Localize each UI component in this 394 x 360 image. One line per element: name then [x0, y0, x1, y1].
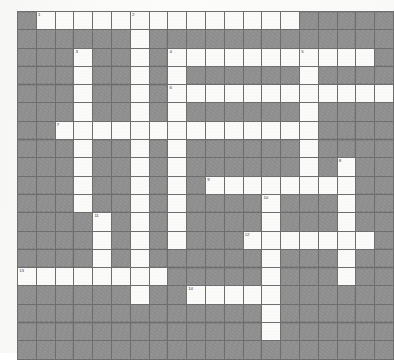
crossword-cell-open[interactable]: [356, 48, 375, 66]
crossword-cell-open[interactable]: 8: [337, 158, 356, 176]
crossword-cell-open[interactable]: [168, 213, 187, 231]
crossword-cell-open[interactable]: [93, 249, 112, 267]
crossword-cell-open[interactable]: [36, 268, 55, 286]
crossword-cell-open[interactable]: [262, 286, 281, 304]
crossword-cell-open[interactable]: 9: [205, 176, 224, 194]
crossword-cell-open[interactable]: [224, 121, 243, 139]
crossword-cell-open[interactable]: [168, 140, 187, 158]
crossword-cell-open[interactable]: [74, 121, 93, 139]
crossword-cell-open[interactable]: [55, 268, 74, 286]
crossword-cell-open[interactable]: [337, 213, 356, 231]
crossword-cell-open[interactable]: [243, 12, 262, 30]
crossword-cell-open[interactable]: 10: [262, 194, 281, 212]
crossword-cell-open[interactable]: [262, 48, 281, 66]
crossword-cell-open[interactable]: [149, 121, 168, 139]
crossword-cell-open[interactable]: [74, 158, 93, 176]
crossword-cell-open[interactable]: [337, 85, 356, 103]
crossword-cell-open[interactable]: [130, 121, 149, 139]
crossword-cell-open[interactable]: [243, 286, 262, 304]
crossword-cell-open[interactable]: [205, 12, 224, 30]
crossword-cell-open[interactable]: [187, 85, 206, 103]
crossword-cell-open[interactable]: [187, 121, 206, 139]
crossword-cell-open[interactable]: [262, 85, 281, 103]
crossword-cell-open[interactable]: [93, 121, 112, 139]
crossword-cell-open[interactable]: [337, 249, 356, 267]
crossword-cell-open[interactable]: [149, 268, 168, 286]
crossword-cell-open[interactable]: 3: [74, 48, 93, 66]
crossword-cell-open[interactable]: [243, 48, 262, 66]
crossword-cell-open[interactable]: [130, 66, 149, 84]
crossword-cell-open[interactable]: [130, 194, 149, 212]
crossword-cell-open[interactable]: [243, 121, 262, 139]
crossword-cell-open[interactable]: [262, 12, 281, 30]
crossword-cell-open[interactable]: [337, 176, 356, 194]
crossword-cell-open[interactable]: [299, 176, 318, 194]
crossword-cell-open[interactable]: [168, 176, 187, 194]
crossword-cell-open[interactable]: [168, 66, 187, 84]
crossword-cell-open[interactable]: [281, 176, 300, 194]
crossword-cell-open[interactable]: [337, 231, 356, 249]
crossword-cell-open[interactable]: [262, 268, 281, 286]
crossword-cell-open[interactable]: [130, 48, 149, 66]
crossword-cell-open[interactable]: 11: [93, 213, 112, 231]
crossword-cell-open[interactable]: [262, 121, 281, 139]
crossword-cell-open[interactable]: [130, 286, 149, 304]
crossword-cell-open[interactable]: [224, 48, 243, 66]
crossword-cell-open[interactable]: 6: [168, 85, 187, 103]
crossword-cell-open[interactable]: [299, 121, 318, 139]
crossword-cell-open[interactable]: [337, 268, 356, 286]
crossword-cell-open[interactable]: [168, 12, 187, 30]
crossword-cell-open[interactable]: [187, 12, 206, 30]
crossword-cell-open[interactable]: [299, 140, 318, 158]
crossword-cell-open[interactable]: [224, 176, 243, 194]
crossword-cell-open[interactable]: [130, 103, 149, 121]
crossword-cell-open[interactable]: [130, 231, 149, 249]
crossword-cell-open[interactable]: [111, 121, 130, 139]
crossword-cell-open[interactable]: [111, 12, 130, 30]
crossword-cell-open[interactable]: [356, 231, 375, 249]
crossword-cell-open[interactable]: [74, 268, 93, 286]
crossword-cell-open[interactable]: 13: [18, 268, 37, 286]
crossword-cell-open[interactable]: [130, 158, 149, 176]
crossword-cell-open[interactable]: [299, 158, 318, 176]
crossword-cell-open[interactable]: [130, 176, 149, 194]
crossword-cell-open[interactable]: [168, 231, 187, 249]
crossword-cell-open[interactable]: [205, 121, 224, 139]
crossword-cell-open[interactable]: [281, 12, 300, 30]
crossword-cell-open[interactable]: [262, 176, 281, 194]
crossword-cell-open[interactable]: [130, 213, 149, 231]
crossword-cell-open[interactable]: 2: [130, 12, 149, 30]
crossword-cell-open[interactable]: 12: [243, 231, 262, 249]
crossword-cell-open[interactable]: [262, 213, 281, 231]
crossword-cell-open[interactable]: [205, 286, 224, 304]
crossword-cell-open[interactable]: [224, 85, 243, 103]
crossword-cell-open[interactable]: [262, 231, 281, 249]
crossword-cell-open[interactable]: 1: [36, 12, 55, 30]
crossword-cell-open[interactable]: [262, 304, 281, 322]
crossword-cell-open[interactable]: [375, 85, 394, 103]
crossword-cell-open[interactable]: [55, 12, 74, 30]
crossword-cell-open[interactable]: [130, 85, 149, 103]
crossword-cell-open[interactable]: [74, 194, 93, 212]
crossword-cell-open[interactable]: [168, 103, 187, 121]
crossword-cell-open[interactable]: [205, 85, 224, 103]
crossword-cell-open[interactable]: [243, 176, 262, 194]
crossword-cell-open[interactable]: [299, 103, 318, 121]
crossword-cell-open[interactable]: [130, 140, 149, 158]
crossword-cell-open[interactable]: [299, 66, 318, 84]
crossword-cell-open[interactable]: [130, 30, 149, 48]
crossword-cell-open[interactable]: [299, 85, 318, 103]
crossword-cell-open[interactable]: [224, 12, 243, 30]
crossword-cell-open[interactable]: [130, 249, 149, 267]
crossword-cell-open[interactable]: [281, 231, 300, 249]
crossword-cell-open[interactable]: [74, 66, 93, 84]
crossword-cell-open[interactable]: [149, 12, 168, 30]
crossword-grid[interactable]: 1234567891011121314: [17, 11, 394, 360]
crossword-cell-open[interactable]: [318, 85, 337, 103]
crossword-cell-open[interactable]: [224, 286, 243, 304]
crossword-cell-open[interactable]: 7: [55, 121, 74, 139]
crossword-cell-open[interactable]: [205, 48, 224, 66]
crossword-cell-open[interactable]: [318, 176, 337, 194]
crossword-cell-open[interactable]: [262, 249, 281, 267]
crossword-cell-open[interactable]: [281, 121, 300, 139]
